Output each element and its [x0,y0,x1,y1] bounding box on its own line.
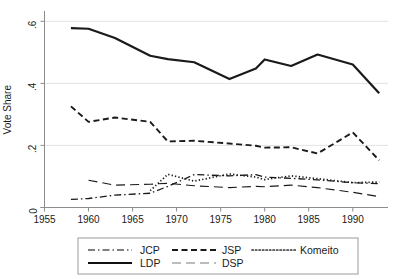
x-tick-label: 1980 [254,214,277,225]
x-tick-label: 1990 [342,214,365,225]
data-series-group [71,28,379,199]
y-tick-label: 0 [28,208,39,214]
legend-label-komeito: Komeito [300,244,339,256]
x-tick-label: 1960 [77,214,100,225]
series-line-jsp [71,106,379,160]
tick-marks [41,21,353,211]
x-tick-label: 1955 [33,214,56,225]
chart-legend: JCPJSPKomeitoLDPDSP [78,238,358,274]
x-tick-label: 1985 [298,214,321,225]
x-tick-label: 1970 [165,214,188,225]
y-axis-title: Vote Share [2,85,13,135]
legend-label-dsp: DSP [222,257,244,269]
legend-label-jsp: JSP [222,244,241,256]
vote-share-line-chart: 19551960196519701975198019851990 0.2.4.6… [0,0,395,279]
y-tick-label: .4 [28,82,39,91]
axes [41,11,389,208]
x-axis-tick-labels: 19551960196519701975198019851990 [33,214,364,225]
series-line-jcp [71,175,379,200]
gridlines [45,21,389,145]
y-tick-label: .2 [28,144,39,153]
y-axis-title-text: Vote Share [2,85,13,135]
y-tick-label: .6 [28,20,39,29]
series-line-komeito [150,174,379,191]
x-tick-label: 1965 [121,214,144,225]
x-tick-label: 1975 [210,214,233,225]
chart-figure: 19551960196519701975198019851990 0.2.4.6… [0,0,395,279]
y-axis-tick-labels: 0.2.4.6 [28,20,39,214]
legend-label-ldp: LDP [140,257,160,269]
legend-label-jcp: JCP [140,244,160,256]
